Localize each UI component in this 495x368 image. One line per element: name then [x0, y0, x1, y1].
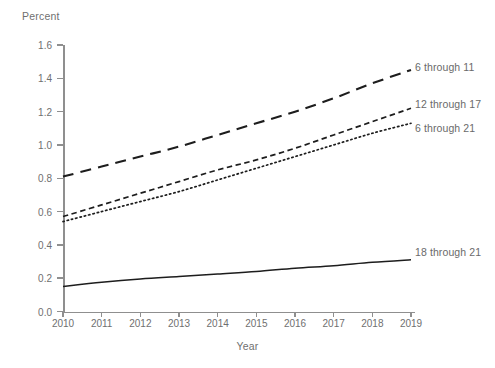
series-line-2 — [63, 123, 411, 221]
series-label-0: 6 through 11 — [415, 61, 474, 73]
series-label-3: 18 through 21 — [415, 246, 481, 258]
series-line-0 — [63, 70, 411, 177]
series-line-3 — [63, 260, 411, 287]
line-chart: Percent 0.00.20.40.60.81.01.21.41.6 2010… — [0, 0, 495, 368]
plot-area — [0, 0, 495, 368]
series-label-1: 12 through 17 — [415, 98, 481, 110]
x-axis-title: Year — [0, 340, 495, 352]
series-label-2: 6 through 21 — [415, 122, 475, 134]
